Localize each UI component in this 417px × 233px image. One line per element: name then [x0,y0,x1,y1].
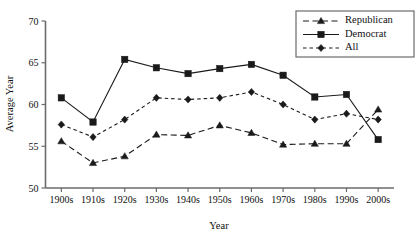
data-point [153,65,159,71]
y-axis-title: Average Year [4,75,15,132]
data-point [248,61,254,67]
y-tick-label: 50 [29,183,39,194]
x-tick-label: 1930s [144,194,168,205]
data-point [58,138,65,144]
x-tick-label: 1990s [335,194,359,205]
x-axis-title: Year [209,220,229,231]
x-tick-label: 1910s [81,194,105,205]
data-point [122,56,128,62]
data-point [217,94,223,101]
data-point [185,70,191,76]
x-axis-tick-group: 1900s1910s1920s1930s1940s1950s1960s1970s… [49,188,390,205]
y-tick-label: 70 [29,16,39,27]
legend-item-label: All [345,41,359,52]
y-axis-tick-group: 5055606570 [29,16,46,194]
y-tick-label: 65 [29,57,39,68]
data-point [216,122,223,128]
data-point [185,96,191,103]
x-tick-label: 2000s [366,194,390,205]
chart-legend: RepublicanDemocratAll [296,11,414,57]
data-point [58,95,64,101]
series-line [61,110,378,163]
data-point [375,106,382,112]
data-point [248,88,254,95]
data-point [311,140,318,146]
series-republican [58,106,382,166]
data-point [312,116,318,123]
x-tick-label: 1920s [113,194,137,205]
data-point [122,116,128,123]
data-point [153,131,160,137]
legend-item-label: Democrat [345,28,386,39]
data-point [343,110,349,117]
data-point [217,65,223,71]
x-tick-label: 1960s [239,194,263,205]
data-point [121,153,128,159]
x-tick-label: 1900s [49,194,73,205]
data-point [280,72,286,78]
data-point [375,116,381,123]
data-point [343,91,349,97]
data-point [153,94,159,101]
data-point [58,121,64,128]
x-tick-label: 1950s [208,194,232,205]
x-tick-label: 1970s [271,194,295,205]
y-tick-label: 60 [29,99,39,110]
x-tick-label: 1940s [176,194,200,205]
data-point [90,133,96,140]
data-point [375,136,381,142]
x-tick-label: 1980s [303,194,327,205]
y-tick-label: 55 [29,141,39,152]
data-point [280,101,286,108]
legend-item-label: Republican [345,14,394,25]
data-point [90,119,96,125]
series-group [58,56,382,165]
chart-container: 5055606570 1900s1910s1920s1930s1940s1950… [0,0,417,233]
legend-marker [318,31,324,37]
line-chart: 5055606570 1900s1910s1920s1930s1940s1950… [0,0,417,233]
data-point [312,94,318,100]
